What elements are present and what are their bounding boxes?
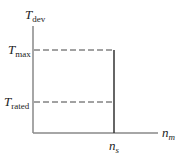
x-axis-label: nm [162, 126, 175, 142]
y-axis-label: Tdev [25, 8, 45, 24]
trated-label: Trated [4, 95, 29, 111]
ns-label: ns [109, 139, 119, 153]
tmax-label: Tmax [8, 43, 31, 59]
